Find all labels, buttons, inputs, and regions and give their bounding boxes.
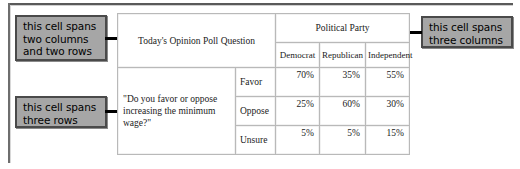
callout-span-rows-line1: this cell spans xyxy=(23,101,100,114)
callout-span-rows-line2: three rows xyxy=(23,114,100,127)
opinion-poll-table: Today's Opinion Poll Question Political … xyxy=(117,13,410,155)
cell-stance-unsure: Unsure xyxy=(236,126,276,155)
callout-span-three-columns: this cell spans three columns xyxy=(421,16,513,48)
cell-favor-republican: 35% xyxy=(320,68,366,97)
callout-span-cols-line2: three columns xyxy=(429,34,506,47)
cell-question-header: Today's Opinion Poll Question xyxy=(118,14,276,68)
poll-table-container: Today's Opinion Poll Question Political … xyxy=(117,13,409,155)
cell-oppose-independent: 30% xyxy=(366,97,410,126)
cell-column-republican: Republican xyxy=(320,42,366,67)
cell-oppose-republican: 60% xyxy=(320,97,366,126)
table-row: "Do you favor or oppose increasing the m… xyxy=(118,68,410,97)
callout-span-cols-line1: this cell spans xyxy=(429,21,506,34)
callout-span-two-columns-two-rows: this cell spans two columns and two rows xyxy=(15,15,107,61)
page-frame-top-highlight xyxy=(8,5,513,6)
cell-column-independent: Independent xyxy=(366,42,410,67)
table-row-header-top: Today's Opinion Poll Question Political … xyxy=(118,14,410,43)
callout-span-two-line1: this cell spans xyxy=(23,20,100,33)
page-frame-left-highlight xyxy=(10,5,11,163)
cell-favor-democrat: 70% xyxy=(276,68,320,97)
cell-question-text: "Do you favor or oppose increasing the m… xyxy=(118,68,236,155)
cell-stance-oppose: Oppose xyxy=(236,97,276,126)
cell-column-democrat: Democrat xyxy=(276,42,320,67)
callout-span-two-line2: two columns xyxy=(23,33,100,46)
page-canvas: this cell spans two columns and two rows… xyxy=(0,0,520,169)
cell-favor-independent: 55% xyxy=(366,68,410,97)
cell-stance-favor: Favor xyxy=(236,68,276,97)
cell-unsure-democrat: 5% xyxy=(276,126,320,155)
callout-span-three-rows: this cell spans three rows xyxy=(15,96,107,128)
cell-party-header: Political Party xyxy=(276,14,410,43)
cell-unsure-independent: 15% xyxy=(366,126,410,155)
callout-span-two-line3: and two rows xyxy=(23,45,100,58)
cell-oppose-democrat: 25% xyxy=(276,97,320,126)
cell-unsure-republican: 5% xyxy=(320,126,366,155)
